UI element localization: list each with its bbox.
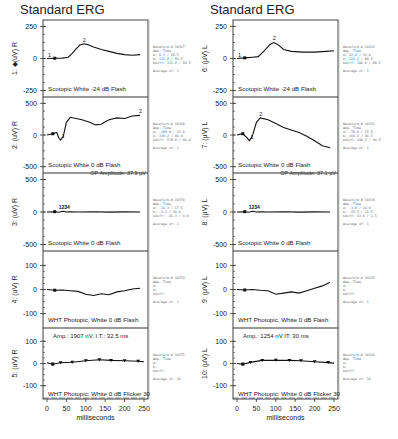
svg-text:-100: -100 — [23, 382, 37, 389]
svg-text:1: 1 — [62, 133, 65, 139]
waveform-trace — [47, 44, 140, 59]
x-tick-label: 200 — [119, 405, 131, 412]
waveform-trace — [237, 282, 330, 294]
panel-stimulus-label: Scotopic White -24 dB Flash — [238, 85, 317, 92]
svg-text:1234: 1234 — [59, 204, 70, 210]
svg-text:-250: -250 — [213, 87, 227, 94]
waveform-info-text: Average of: 10 — [153, 377, 181, 381]
x-tick-label: 0 — [45, 405, 49, 412]
svg-text:0: 0 — [223, 286, 227, 293]
waveform-info-text: bdiff: — [343, 292, 355, 296]
erg-panel-3: 5000-5003: (uV) R1234Scotopic White 0 dB… — [11, 173, 189, 248]
y-axis-label: 6: (µV) L — [201, 45, 209, 72]
waveform-info-text: bdiff: — [153, 292, 165, 296]
waveform-trace — [47, 211, 140, 212]
svg-text:-500: -500 — [213, 163, 227, 170]
svg-text:0: 0 — [223, 209, 227, 216]
waveform-info-text: Average of: 1 — [343, 300, 369, 304]
x-tick-label: 150 — [289, 405, 301, 412]
svg-text:100: 100 — [25, 262, 37, 269]
x-tick-label: 200 — [309, 405, 321, 412]
waveform-info-text: Average of: 1 — [153, 222, 179, 226]
svg-text:500: 500 — [25, 100, 37, 107]
y-axis-label: 10: (µV) L — [201, 348, 209, 379]
waveform-info-text: bdiff: -16.3 / 0.0 — [153, 214, 189, 218]
x-tick-label: 100 — [270, 405, 282, 412]
svg-text:2: 2 — [259, 111, 262, 117]
waveform-info-text: bdiff: — [153, 369, 165, 373]
svg-text:2: 2 — [273, 35, 276, 41]
erg-panel-8: 5000-5008: (µV) L1234Scotopic White 0 dB… — [201, 173, 377, 248]
panel-stimulus-label: Scotopic White 0 dB Flash — [238, 239, 311, 246]
y-axis-label: 9: (µV) L — [201, 276, 209, 303]
x-axis-label: milliseconds — [266, 414, 305, 421]
svg-text:-250: -250 — [23, 87, 37, 94]
erg-chart-left-eye: 2500-2506: (µV) L12Scotopic White -24 dB… — [199, 0, 398, 439]
svg-text:-100: -100 — [213, 310, 227, 317]
y-axis-label: 2: (uV) R — [11, 121, 19, 149]
waveform-trace — [237, 211, 330, 212]
svg-text:0: 0 — [33, 55, 37, 62]
svg-text:1: 1 — [250, 134, 253, 140]
waveform-info-text: bdiff: 111.4 / 93.5 — [153, 61, 191, 65]
flicker-amplitude-annotation: Amp.: 1254 nV IT: 30 ms — [243, 333, 309, 339]
waveform-trace — [47, 288, 140, 295]
panel-stimulus-label: WHT Photopic, White 0 dB Flash — [238, 316, 329, 323]
svg-text:0: 0 — [33, 286, 37, 293]
y-axis-label: 7: (µV) L — [201, 121, 209, 148]
svg-text:500: 500 — [25, 176, 37, 183]
svg-text:-100: -100 — [23, 310, 37, 317]
svg-text:100: 100 — [215, 262, 227, 269]
svg-text:500: 500 — [215, 176, 227, 183]
svg-text:1234: 1234 — [249, 204, 260, 210]
left-column-right-eye: Standard ERG 2500-2501: ◆(uV) R12Scotopi… — [0, 0, 199, 439]
waveform-info-text: Average of: 1 — [153, 146, 179, 150]
waveform-info-text: Average of: 1 — [153, 69, 179, 73]
erg-panel-10: 1000-10010: (µV) LAmp.: 1254 nV IT: 30 m… — [201, 328, 375, 398]
svg-text:0: 0 — [33, 360, 37, 367]
panel-stimulus-label: Scotopic White 0 dB Flash — [48, 161, 121, 168]
svg-text:100: 100 — [215, 338, 227, 345]
waveform-info-text: Average of: 1 — [153, 300, 179, 304]
x-tick-label: 100 — [80, 405, 92, 412]
y-axis-label: 8: (µV) L — [201, 198, 209, 225]
erg-panel-4: 1000-1004: (uV) RWHT Photopic, White 0 d… — [11, 251, 185, 323]
x-tick-label: 50 — [63, 405, 71, 412]
svg-text:-500: -500 — [23, 241, 37, 248]
svg-text:500: 500 — [215, 100, 227, 107]
waveform-info-text: Average of: 1 — [343, 222, 369, 226]
panel-stimulus-label: WHT Photopic: White 0 dB Flicker 30 — [48, 390, 151, 397]
y-axis-label: 5: (uV) R — [11, 349, 19, 377]
panel-stimulus-label: Scotopic White 0 dB Flash — [48, 239, 121, 246]
svg-text:0: 0 — [223, 360, 227, 367]
y-axis-label: 3: (uV) R — [11, 198, 19, 226]
erg-chart-right-eye: 2500-2501: ◆(uV) R12Scotopic White -24 d… — [0, 0, 199, 439]
waveform-info-text: bdiff: 519.9 / 46.0 — [153, 138, 191, 142]
erg-panel-9: 1000-1009: (µV) LWHT Photopic, White 0 d… — [201, 251, 375, 323]
panel-stimulus-label: WHT Photopic: White 0 dB Flicker 30 — [238, 390, 341, 397]
waveform-info-text: bdiff: — [343, 369, 355, 373]
svg-text:-500: -500 — [23, 163, 37, 170]
flicker-amplitude-annotation: Amp.: 1907 nV, I.T.: 32.5 ms — [53, 333, 128, 339]
erg-panel-1: 2500-2501: ◆(uV) R12Scotopic White -24 d… — [11, 23, 191, 94]
waveform-info-text: bdiff: 100.0 / 88.5 — [343, 61, 381, 65]
panel-stimulus-label: Scotopic White 0 dB Flash — [238, 161, 311, 168]
erg-panel-2: 5000-5002: (uV) R12Scotopic White 0 dB F… — [11, 97, 191, 176]
x-axis-label: milliseconds — [76, 414, 115, 421]
svg-text:1: 1 — [48, 52, 51, 58]
x-tick-label: 0 — [235, 405, 239, 412]
erg-panel-7: 5000-5007: (µV) L12Scotopic White 0 dB F… — [201, 97, 381, 176]
x-tick-label: 50 — [253, 405, 261, 412]
svg-text:100: 100 — [25, 338, 37, 345]
waveform-info-text: bdiff: 244.2 / 46.5 — [343, 138, 381, 142]
y-axis-label: 1: ◆(uV) R — [11, 42, 19, 75]
panel-stimulus-label: WHT Photopic, White 0 dB Flash — [48, 316, 139, 323]
y-axis-label: 4: (uV) R — [11, 275, 19, 303]
waveform-info-text: Average of: 10 — [343, 377, 371, 381]
svg-text:-500: -500 — [213, 241, 227, 248]
svg-text:-100: -100 — [213, 382, 227, 389]
svg-text:0: 0 — [33, 132, 37, 139]
svg-text:250: 250 — [25, 23, 37, 30]
erg-panel-6: 2500-2506: (µV) L12Scotopic White -24 dB… — [201, 23, 381, 94]
right-column-left-eye: Standard ERG 2500-2506: (µV) L12Scotopic… — [199, 0, 398, 439]
